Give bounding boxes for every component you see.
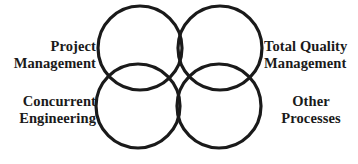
label-concurrent-engineering-line1: Concurrent <box>19 93 96 110</box>
label-concurrent-engineering: Concurrent Engineering <box>19 93 96 127</box>
diagram-canvas: Project Management Concurrent Engineerin… <box>0 0 358 164</box>
label-project-management-line1: Project <box>14 38 96 55</box>
four-circle-venn-diagram <box>92 0 266 164</box>
label-concurrent-engineering-line2: Engineering <box>19 110 96 127</box>
label-total-quality-management-line1: Total Quality <box>264 38 347 55</box>
circle-fills <box>96 6 262 148</box>
label-other-processes-line2: Processes <box>264 110 358 127</box>
label-project-management: Project Management <box>14 38 96 72</box>
label-total-quality-management-line2: Management <box>264 55 347 72</box>
label-other-processes: Other Processes <box>264 93 358 127</box>
label-project-management-line2: Management <box>14 55 96 72</box>
label-total-quality-management: Total Quality Management <box>264 38 347 72</box>
label-other-processes-line1: Other <box>264 93 358 110</box>
